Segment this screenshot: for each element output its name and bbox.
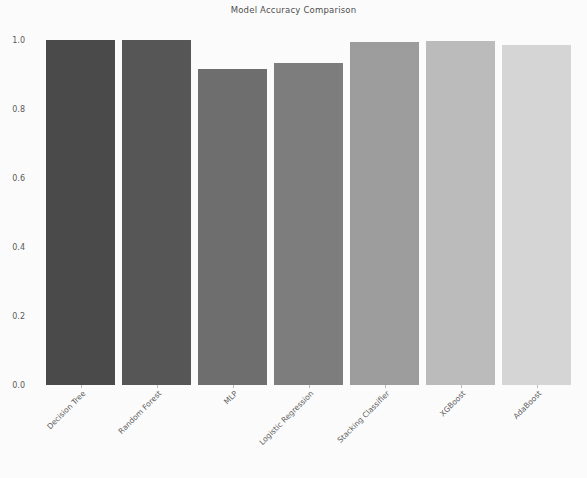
bar-series bbox=[46, 40, 578, 385]
x-tick-label: Random Forest bbox=[72, 389, 163, 478]
x-tick-label: Decision Tree bbox=[0, 389, 87, 478]
bar bbox=[198, 69, 267, 385]
x-tick-mark bbox=[537, 385, 538, 388]
x-tick-mark bbox=[461, 385, 462, 388]
x-tick-label: Logistic Regression bbox=[224, 389, 315, 478]
x-tick-label: XGBoost bbox=[376, 389, 467, 478]
x-tick-mark bbox=[385, 385, 386, 388]
x-tick-mark bbox=[81, 385, 82, 388]
bar bbox=[502, 45, 571, 385]
y-tick-label: 0.4 bbox=[0, 243, 25, 252]
y-tick-label: 0.0 bbox=[0, 381, 25, 390]
bar bbox=[350, 42, 419, 385]
bar bbox=[274, 63, 343, 385]
y-tick-label: 0.8 bbox=[0, 105, 25, 114]
x-tick-label: MLP bbox=[148, 389, 239, 478]
x-tick-mark bbox=[157, 385, 158, 388]
chart-title: Model Accuracy Comparison bbox=[0, 5, 587, 15]
y-tick-label: 1.0 bbox=[0, 36, 25, 45]
bar-chart-figure: Model Accuracy Comparison Accuracy 0.00.… bbox=[0, 0, 587, 478]
bar bbox=[122, 40, 191, 385]
x-tick-mark bbox=[233, 385, 234, 388]
x-tick-mark bbox=[309, 385, 310, 388]
bar bbox=[46, 40, 115, 385]
bar bbox=[426, 41, 495, 385]
y-tick-label: 0.6 bbox=[0, 174, 25, 183]
plot-area: Accuracy 0.00.20.40.60.81.0 Decision Tre… bbox=[46, 40, 578, 385]
x-tick-label: Stacking Classifier bbox=[300, 389, 391, 478]
y-tick-label: 0.2 bbox=[0, 312, 25, 321]
x-tick-label: AdaBoost bbox=[452, 389, 543, 478]
